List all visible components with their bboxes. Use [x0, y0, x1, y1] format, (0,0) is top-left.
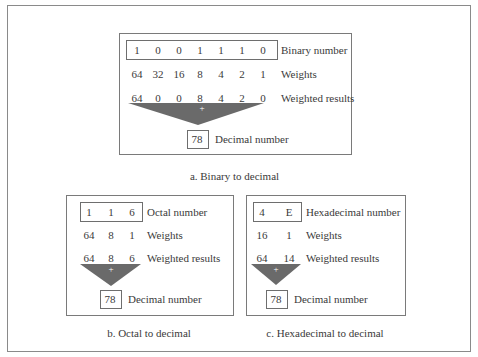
hex-sum-triangle-icon: [0, 0, 478, 357]
caption-hex: c. Hexadecimal to decimal: [246, 326, 404, 340]
hex-decimal-value: 78: [266, 292, 286, 306]
hex-decimal-label: Decimal number: [294, 292, 368, 306]
hex-plus-icon: +: [266, 262, 286, 276]
